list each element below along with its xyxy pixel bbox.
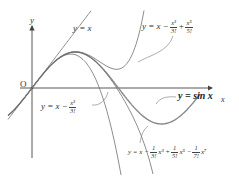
line-label: y = x: [73, 24, 92, 33]
taylor-sine-figure: y x O y = x y = x −x³3!+x⁵5! y = x −x³3!…: [0, 0, 239, 181]
septic-term3: x⁷: [201, 148, 207, 156]
x-axis-label: x: [221, 96, 225, 104]
cubic-curve: [8, 54, 121, 175]
septic-label: y = x −13!x³ +15!x⁵ −17!x⁷: [128, 145, 206, 159]
quintic-den1: 3!: [170, 28, 177, 35]
cubic-den: 3!: [69, 108, 76, 115]
quintic-label: y = x −x³3!+x⁵5!: [142, 20, 194, 34]
sine-label: y = sin x: [178, 91, 213, 101]
quintic-prefix: y = x −: [142, 21, 169, 31]
y-axis-label: y: [30, 16, 34, 25]
quintic-den2: 5!: [185, 28, 192, 35]
septic-term2: x⁵ −: [179, 148, 191, 156]
leader-cubic: [92, 92, 108, 105]
cubic-prefix: y = x −: [41, 101, 68, 111]
quintic-plus: +: [178, 21, 184, 31]
septic-den2: 5!: [171, 153, 178, 160]
cubic-label: y = x −x³3!: [41, 100, 77, 114]
septic-den3: 7!: [192, 153, 199, 160]
sine-label-text: y = sin x: [178, 90, 213, 101]
leader-sine: [156, 97, 176, 104]
origin-label: O: [20, 80, 27, 89]
leader-quintic: [138, 36, 173, 62]
leader-septic: [140, 126, 148, 143]
septic-term1: x³ +: [158, 148, 170, 156]
septic-prefix: y = x −: [128, 148, 149, 156]
septic-den1: 3!: [150, 153, 157, 160]
